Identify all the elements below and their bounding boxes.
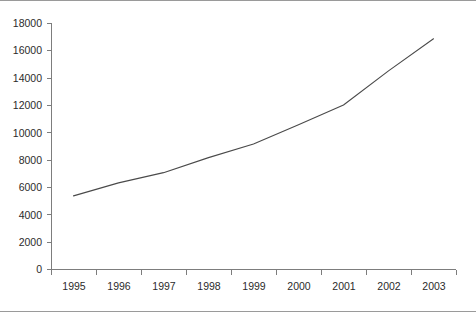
- y-tick-label-18000: 18000: [13, 17, 42, 29]
- y-axis-ticks: [47, 23, 52, 269]
- y-tick-label-14000: 14000: [13, 72, 42, 84]
- y-tick-label-10000: 10000: [13, 127, 42, 139]
- x-tick-label-1999: 1999: [242, 280, 266, 292]
- y-tick-label-4000: 4000: [19, 209, 43, 221]
- x-tick-label-2003: 2003: [422, 280, 446, 292]
- y-tick-label-16000: 16000: [13, 44, 42, 56]
- y-tick-label-2000: 2000: [19, 236, 43, 248]
- x-tick-label-1995: 1995: [62, 280, 86, 292]
- y-tick-label-12000: 12000: [13, 99, 42, 111]
- y-tick-label-8000: 8000: [19, 154, 43, 166]
- x-tick-label-1997: 1997: [152, 280, 176, 292]
- chart-container: 0 2000 4000 6000 8000 10000 12000 14000 …: [0, 0, 476, 312]
- x-tick-label-2002: 2002: [377, 280, 401, 292]
- x-axis-labels: 1995 1996 1997 1998 1999 2000 2001 2002 …: [62, 280, 446, 292]
- y-tick-label-6000: 6000: [19, 181, 43, 193]
- x-tick-label-2001: 2001: [332, 280, 356, 292]
- data-series-line: [74, 39, 434, 196]
- line-chart: 0 2000 4000 6000 8000 10000 12000 14000 …: [0, 1, 476, 312]
- y-axis-labels: 0 2000 4000 6000 8000 10000 12000 14000 …: [13, 17, 42, 275]
- x-axis-ticks: [52, 270, 457, 275]
- x-tick-label-2000: 2000: [287, 280, 311, 292]
- x-tick-label-1996: 1996: [107, 280, 131, 292]
- y-tick-label-0: 0: [36, 263, 42, 275]
- x-tick-label-1998: 1998: [197, 280, 221, 292]
